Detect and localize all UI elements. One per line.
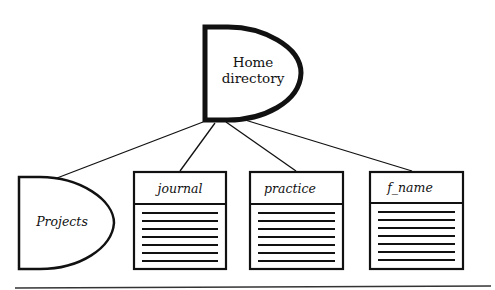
directory-diagram: Home directory Projects journal practice [0, 0, 495, 290]
projects-directory-node: Projects [19, 177, 114, 269]
connector-journal [180, 123, 215, 171]
file-lines [258, 213, 335, 261]
connector-practice [226, 122, 296, 171]
journal-file-node: journal [134, 172, 226, 269]
home-label-line2: directory [222, 70, 285, 86]
bottom-rule [15, 286, 491, 288]
practice-file-node: practice [250, 172, 343, 269]
practice-label: practice [264, 181, 316, 196]
projects-label: Projects [35, 214, 88, 229]
home-label-line1: Home [233, 54, 274, 70]
fname-file-node: f_name [370, 172, 463, 269]
home-directory-node: Home directory [205, 27, 301, 120]
file-lines [142, 213, 218, 261]
journal-label: journal [155, 181, 203, 196]
fname-label: f_name [386, 180, 433, 195]
file-lines [378, 212, 455, 260]
connector-fname [245, 120, 412, 171]
connectors [57, 120, 412, 178]
